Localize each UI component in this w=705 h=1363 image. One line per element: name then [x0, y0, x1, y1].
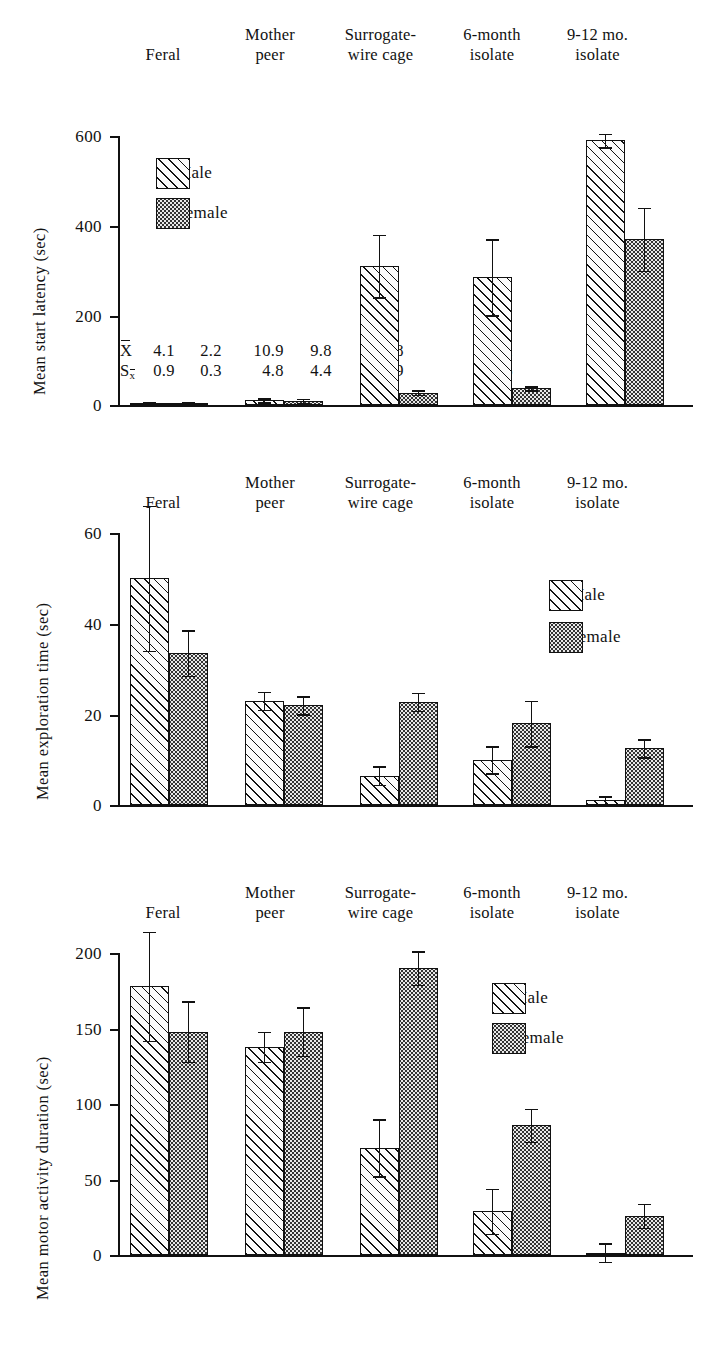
error-cap-lower-male-group-3 [373, 785, 386, 787]
error-cap-upper-female-group-3 [412, 390, 425, 392]
bar-female-group-3 [399, 968, 438, 1255]
error-cap-lower-female-group-1 [182, 1062, 195, 1064]
error-cap-lower-male-group-4 [486, 315, 499, 317]
y-tick-label-0-2: 0 [50, 797, 102, 814]
error-bar-female-group-5 [644, 208, 646, 271]
error-bar-male-group-5 [605, 134, 607, 147]
error-bar-male-group-4 [492, 239, 494, 315]
bar-male-group-5 [586, 140, 625, 405]
y-tick-label-100-3: 100 [46, 1096, 102, 1113]
x-axis-line-3 [118, 1255, 693, 1257]
error-cap-upper-male-group-5 [599, 1243, 612, 1245]
y-tick-150-3 [110, 1029, 119, 1031]
error-cap-upper-female-group-2 [297, 1007, 310, 1009]
error-cap-upper-male-group-3 [373, 766, 386, 768]
legend-swatch-female-3 [492, 1023, 526, 1054]
error-cap-lower-male-group-5 [599, 147, 612, 149]
error-bar-male-group-4 [492, 746, 494, 773]
error-cap-lower-female-group-4 [525, 1142, 538, 1144]
error-cap-upper-female-group-3 [412, 951, 425, 953]
error-bar-female-group-3 [418, 693, 420, 711]
error-cap-lower-male-group-2 [258, 710, 271, 712]
bar-female-group-4 [512, 1125, 551, 1255]
error-cap-lower-male-group-4 [486, 1234, 499, 1236]
error-cap-upper-female-group-2 [297, 696, 310, 698]
y-tick-400-1 [110, 226, 119, 228]
error-cap-lower-female-group-4 [525, 390, 538, 392]
error-cap-lower-male-group-4 [486, 773, 499, 775]
x-axis-line-1 [118, 405, 693, 407]
bar-female-group-2 [284, 705, 323, 805]
error-bar-male-group-1 [149, 506, 151, 651]
error-cap-upper-female-group-5 [638, 1204, 651, 1206]
chart-panel-motor-activity: Feral Mother peer Surrogate- wire cage 6… [0, 855, 705, 1363]
error-cap-upper-male-group-4 [486, 1189, 499, 1191]
legend-swatch-male-1 [156, 158, 190, 189]
y-tick-600-1 [110, 136, 119, 138]
legend-row-male-1: Male [156, 163, 212, 183]
error-cap-upper-female-group-3 [412, 693, 425, 695]
error-bar-female-group-5 [644, 1204, 646, 1228]
y-tick-50-3 [110, 1180, 119, 1182]
error-bar-male-group-2 [264, 692, 266, 710]
y-tick-label-200-1: 200 [50, 308, 102, 325]
error-cap-upper-female-group-4 [525, 701, 538, 703]
error-bar-female-group-4 [531, 1109, 533, 1142]
legend-row-male-3: Male [492, 988, 548, 1008]
error-bar-female-group-5 [644, 739, 646, 757]
y-tick-label-200-3: 200 [46, 945, 102, 962]
plot-area-1: Mean start latency (sec) 600 400 200 0 M… [0, 0, 705, 455]
error-cap-lower-female-group-1 [182, 676, 195, 678]
error-cap-lower-male-group-2 [258, 1062, 271, 1064]
y-tick-label-60-2: 60 [50, 525, 102, 542]
error-cap-lower-female-group-1 [182, 403, 195, 405]
stat-sem-mother-peer-male: 4.8 [239, 361, 284, 381]
error-bar-female-group-1 [188, 630, 190, 675]
stat-mean-mother-peer-female: 9.8 [287, 341, 332, 361]
error-cap-lower-male-group-5 [599, 805, 612, 807]
legend-swatch-female-1 [156, 198, 190, 229]
y-tick-label-40-2: 40 [50, 616, 102, 633]
error-cap-upper-male-group-1 [143, 506, 156, 508]
y-tick-40-2 [110, 624, 119, 626]
error-bar-male-group-3 [379, 235, 381, 298]
bar-male-group-2 [245, 701, 284, 805]
y-tick-0-3 [110, 1255, 119, 1257]
error-cap-lower-female-group-3 [412, 985, 425, 987]
error-cap-upper-female-group-4 [525, 1109, 538, 1111]
bar-female-group-3 [399, 702, 438, 805]
legend-row-male-2: Male [549, 585, 605, 605]
error-cap-lower-female-group-5 [638, 757, 651, 759]
stat-mean-mother-peer-male: 10.9 [232, 341, 284, 361]
y-tick-100-3 [110, 1104, 119, 1106]
error-bar-female-group-2 [303, 1007, 305, 1055]
error-bar-female-group-2 [303, 696, 305, 714]
plot-area-3: Mean motor activity duration (sec) 200 1… [0, 855, 705, 1363]
legend-row-female-2: Female [549, 627, 621, 647]
error-cap-upper-female-group-5 [638, 208, 651, 210]
y-axis-line-2 [118, 533, 120, 807]
error-cap-lower-male-group-3 [373, 1176, 386, 1178]
y-tick-label-600-1: 600 [50, 128, 102, 145]
error-cap-upper-female-group-1 [182, 1001, 195, 1003]
stat-mean-feral-male: 4.1 [130, 341, 175, 361]
error-cap-lower-female-group-5 [638, 271, 651, 273]
error-cap-upper-male-group-3 [373, 235, 386, 237]
error-cap-upper-female-group-2 [297, 399, 310, 401]
error-cap-upper-male-group-5 [599, 134, 612, 136]
y-tick-60-2 [110, 533, 119, 535]
error-cap-lower-female-group-3 [412, 395, 425, 397]
bar-male-group-2 [245, 1047, 284, 1255]
y-tick-200-1 [110, 316, 119, 318]
error-cap-lower-male-group-2 [258, 402, 271, 404]
error-cap-lower-male-group-3 [373, 297, 386, 299]
error-bar-male-group-1 [149, 932, 151, 1041]
error-cap-upper-male-group-4 [486, 239, 499, 241]
error-cap-lower-female-group-2 [297, 1056, 310, 1058]
chart-panel-start-latency: Feral Mother peer Surrogate- wire cage 6… [0, 0, 705, 455]
error-cap-lower-female-group-2 [297, 403, 310, 405]
y-tick-label-50-3: 50 [46, 1172, 102, 1189]
error-cap-upper-female-group-5 [638, 739, 651, 741]
error-cap-upper-male-group-3 [373, 1119, 386, 1121]
error-bar-male-group-4 [492, 1189, 494, 1234]
